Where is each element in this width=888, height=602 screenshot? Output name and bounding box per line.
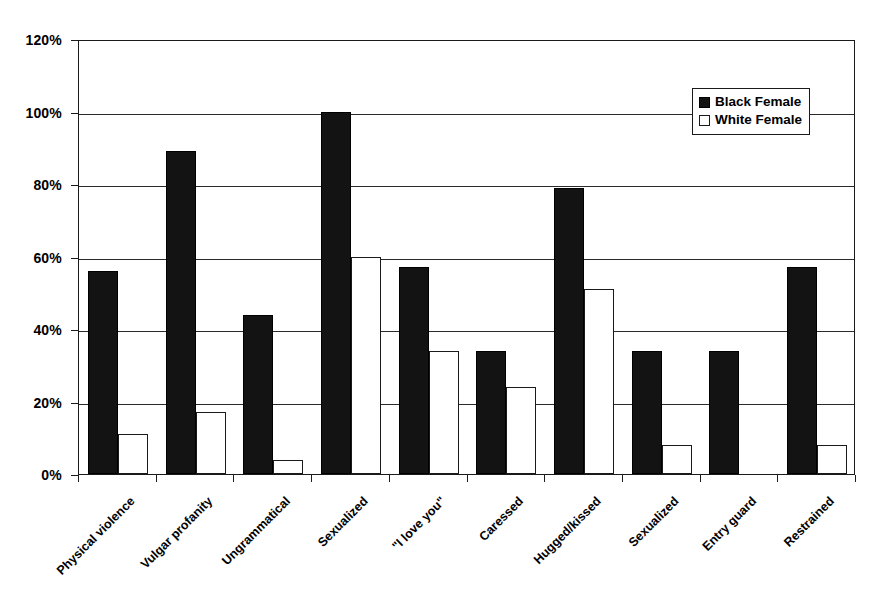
bar-black-female bbox=[88, 271, 118, 474]
bar-black-female bbox=[243, 315, 273, 475]
x-axis-label-text: Hugged/kissed bbox=[532, 495, 604, 567]
bar-black-female bbox=[476, 351, 506, 474]
bar-white-female bbox=[506, 387, 536, 474]
legend-item-white-female: White Female bbox=[699, 111, 802, 129]
filled-square-icon bbox=[699, 97, 710, 108]
x-axis-label-text: Entry guard bbox=[700, 495, 758, 553]
bar-black-female bbox=[321, 112, 351, 475]
x-axis-label-text: Caressed bbox=[477, 495, 526, 544]
x-axis-label-text: Physical violence bbox=[55, 495, 138, 578]
x-axis-label-text: Vulgar profanity bbox=[139, 495, 215, 571]
bar-white-female bbox=[662, 445, 692, 474]
open-square-icon bbox=[699, 115, 710, 126]
bar-black-female bbox=[709, 351, 739, 474]
bar-black-female bbox=[787, 267, 817, 474]
legend-item-black-female: Black Female bbox=[699, 93, 802, 111]
chart-legend: Black Female White Female bbox=[692, 88, 810, 135]
bar-black-female bbox=[554, 188, 584, 474]
bar-black-female bbox=[632, 351, 662, 474]
bar-white-female bbox=[273, 460, 303, 475]
bar-chart: 0%20%40%60%80%100%120% Physical violence… bbox=[0, 0, 888, 602]
x-axis-label-text: Restrained bbox=[782, 495, 837, 550]
bar-black-female bbox=[399, 267, 429, 474]
x-axis-label-text: Ungrammatical bbox=[220, 495, 293, 568]
bar-white-female bbox=[817, 445, 847, 474]
bar-white-female bbox=[429, 351, 459, 474]
bar-white-female bbox=[584, 289, 614, 474]
x-axis-label: Entry guard bbox=[217, 495, 759, 602]
x-axis-label-text: Sexualized bbox=[316, 495, 371, 550]
legend-label: Black Female bbox=[715, 95, 801, 109]
legend-label: White Female bbox=[715, 113, 802, 127]
bar-black-female bbox=[166, 151, 196, 474]
x-axis-label-text: "I love you" bbox=[390, 495, 448, 553]
x-axis-label-text: Sexualized bbox=[627, 495, 682, 550]
bar-white-female bbox=[196, 412, 226, 474]
bar-white-female bbox=[351, 257, 381, 475]
bar-white-female bbox=[118, 434, 148, 474]
